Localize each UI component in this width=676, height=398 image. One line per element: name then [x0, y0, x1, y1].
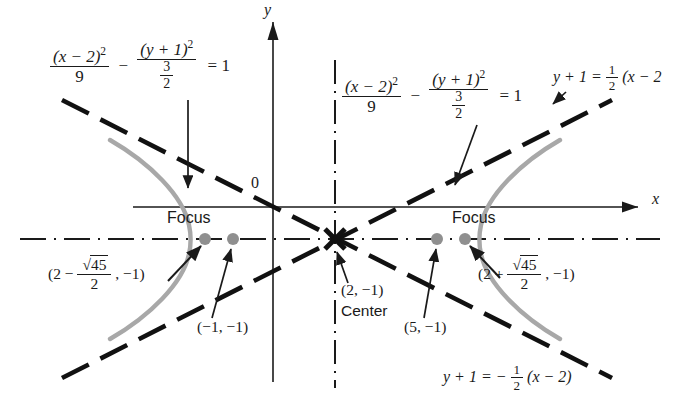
y-axis-label: y: [264, 2, 271, 18]
vertex-dot-right: [431, 233, 443, 245]
asymptote-lower-rhs: (x − 2): [527, 368, 572, 385]
equation-left-operator: −: [113, 56, 133, 75]
equation-right: (x − 2)2 9 − (y + 1)2 3 2 = 1: [342, 72, 522, 123]
vertex-label-right: (5, −1): [404, 319, 446, 335]
radical-right: √45: [510, 257, 538, 273]
focus-left-fraction: √45 2: [77, 257, 111, 291]
focus-dot-left: [199, 233, 211, 245]
focus-coordinate-left: (2 − √45 2 , −1): [48, 258, 145, 292]
focus-label-left: Focus: [167, 210, 211, 226]
equation-left-equals: = 1: [201, 56, 230, 75]
equation-right-term2: (y + 1)2 3 2: [429, 71, 488, 122]
focus-right-suffix: , −1): [545, 265, 574, 282]
leader-left-focus: [168, 246, 201, 281]
equation-left-term2: (y + 1)2 3 2: [137, 41, 196, 92]
hyperbola-figure: y x 0 (x − 2)2 9 − (y + 1)2 3 2 = 1 (x −…: [0, 0, 676, 398]
equation-right-operator: −: [405, 86, 425, 105]
equation-left: (x − 2)2 9 − (y + 1)2 3 2 = 1: [50, 42, 230, 93]
center-word-label: Center: [341, 303, 388, 319]
focus-right-prefix: (2 +: [478, 265, 507, 282]
focus-left-prefix: (2 −: [48, 265, 77, 282]
radical-left: √45: [80, 257, 108, 273]
equation-left-term1: (x − 2)2 9: [50, 48, 109, 85]
leader-center: [337, 252, 348, 283]
asymptote-upper-rhs: (x − 2: [622, 68, 661, 85]
focus-left-suffix: , −1): [115, 265, 144, 282]
asymptote-upper-lhs: y + 1 =: [553, 68, 606, 85]
focus-coordinate-right: (2 + √45 2 , −1): [478, 258, 575, 292]
y-axis: [268, 22, 279, 382]
leader-upper-asymptote: [553, 92, 566, 104]
focus-dot-right: [459, 233, 471, 245]
focus-right-fraction: √45 2: [507, 257, 541, 291]
equation-right-term1: (x − 2)2 9: [342, 78, 401, 115]
asymptote-upper-fraction: 1 2: [606, 63, 619, 92]
asymptote-label-upper: y + 1 = 1 2 (x − 2: [553, 64, 662, 93]
focus-label-right: Focus: [452, 210, 496, 226]
asymptote-lower-lhs: y + 1 = −: [443, 368, 507, 385]
origin-label: 0: [251, 175, 259, 191]
equation-right-equals: = 1: [493, 86, 522, 105]
leader-left-vertex: [212, 249, 231, 318]
asymptote-lower-fraction: 1 2: [511, 363, 524, 392]
vertex-label-left: (−1, −1): [197, 319, 248, 335]
center-coordinate-label: (2, −1): [341, 282, 383, 298]
x-axis-label: x: [652, 191, 659, 207]
vertex-dot-left: [227, 233, 239, 245]
asymptote-label-lower: y + 1 = − 1 2 (x − 2): [443, 364, 572, 393]
